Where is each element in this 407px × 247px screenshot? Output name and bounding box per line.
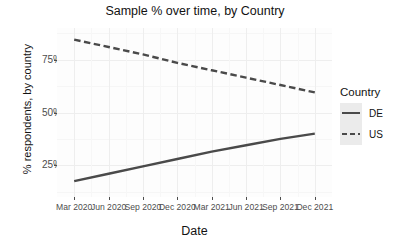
x-tick-mark	[109, 197, 110, 200]
legend-key-line	[342, 133, 360, 135]
legend-item-us[interactable]: US	[340, 124, 383, 145]
chart-container: Sample % over time, by Country % respond…	[0, 0, 407, 247]
x-tick-mark	[280, 197, 281, 200]
x-tick-label: Sep 2021	[262, 202, 299, 212]
series-lines	[57, 28, 332, 197]
chart-title: Sample % over time, by Country	[57, 4, 333, 18]
x-axis-title: Date	[57, 224, 332, 238]
plot-panel	[57, 28, 332, 197]
series-line-us	[74, 40, 315, 93]
x-tick-mark	[74, 197, 75, 200]
legend-item-de[interactable]: DE	[340, 103, 383, 124]
legend-key-line	[342, 112, 360, 114]
x-tick-label: Jun 2020	[91, 202, 126, 212]
x-tick-label: Jun 2021	[228, 202, 263, 212]
x-tick-mark	[246, 197, 247, 200]
x-tick-label: Mar 2021	[194, 202, 230, 212]
x-tick-label: Dec 2020	[159, 202, 196, 212]
y-axis-title: % respondents, by country	[21, 24, 33, 194]
legend-label: US	[369, 129, 383, 140]
x-tick-mark	[315, 197, 316, 200]
x-tick-mark	[177, 197, 178, 200]
x-tick-mark	[143, 197, 144, 200]
x-tick-label: Dec 2021	[296, 202, 333, 212]
legend: Country DEUS	[340, 86, 383, 145]
legend-title: Country	[340, 86, 383, 98]
x-tick-label: Sep 2020	[125, 202, 162, 212]
legend-items: DEUS	[340, 103, 383, 145]
x-tick-label: Mar 2020	[56, 202, 92, 212]
x-tick-mark	[212, 197, 213, 200]
legend-label: DE	[369, 108, 383, 119]
legend-key-de	[340, 103, 362, 124]
series-line-de	[74, 134, 315, 182]
legend-key-us	[340, 124, 362, 145]
